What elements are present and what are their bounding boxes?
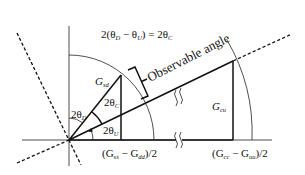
theta-c-arc [92,112,102,124]
dashed-normal-line [17,33,81,165]
g-sd-label: Gsd [95,75,109,88]
break-mark-upper [175,88,183,106]
theta-u-label: 2θU [103,124,120,137]
equation-label: 2(θD − θU) = 2θC [101,28,173,41]
x-left-label: (Gss − Gdd)/2 [102,147,157,160]
angle-diagram: 2(θD − θU) = 2θC Observable angle Gsd 2θ… [0,0,305,175]
g-cu-label: Gcu [212,100,227,113]
outer-large-arc [227,40,252,140]
dashed-line-upper [233,34,292,61]
theta-d-label: 2θD [71,108,87,121]
x-right-label: (Gcc − Guu)/2 [212,147,268,160]
theta-c-label: 2θC [104,96,120,109]
break-mark-lower [175,132,183,148]
dashed-line-lower [17,140,69,163]
